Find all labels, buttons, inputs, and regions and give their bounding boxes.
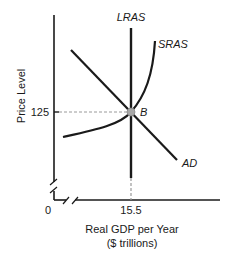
as-ad-diagram: LRAS SRAS AD B 125 0 15.5 Price Level Re… (0, 0, 229, 258)
x-origin-label: 0 (45, 204, 51, 216)
equilibrium-label: B (140, 106, 147, 118)
ad-line (71, 50, 177, 160)
x-tick-label-15-5: 15.5 (120, 204, 141, 216)
y-axis-title: Price Level (15, 69, 27, 123)
lras-label: LRAS (117, 11, 146, 23)
equilibrium-point-b (127, 108, 135, 116)
y-tick-label-125: 125 (31, 106, 49, 118)
x-axis-title-line1: Real GDP per Year (85, 223, 179, 235)
ad-label: AD (181, 157, 197, 169)
x-axis (54, 197, 220, 204)
sras-label: SRAS (158, 38, 189, 50)
y-axis (50, 15, 59, 200)
x-axis-title-line2: ($ trillions) (107, 237, 158, 249)
